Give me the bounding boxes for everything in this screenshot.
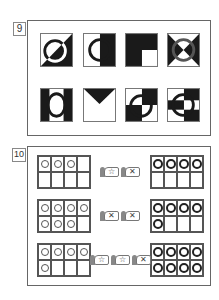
cross-icon: ✕ xyxy=(136,255,151,265)
star-card[interactable]: ☆ xyxy=(100,167,119,177)
circle-icon xyxy=(67,204,75,212)
tile-vertical-split-circle[interactable] xyxy=(83,33,116,67)
circle-icon xyxy=(80,204,88,212)
grid-cell xyxy=(190,216,203,232)
end-grid-row-1 xyxy=(150,155,204,189)
tile-side-bars-circle[interactable] xyxy=(40,88,73,122)
grid-cell xyxy=(177,260,190,276)
grid-cell xyxy=(190,172,203,188)
circle-icon xyxy=(179,263,189,273)
grid-cell xyxy=(151,156,164,172)
circle-icon xyxy=(41,204,49,212)
grid-cell xyxy=(151,244,164,260)
grid-cell xyxy=(51,156,64,172)
grid-cell xyxy=(64,156,77,172)
circle-icon xyxy=(153,159,163,169)
grid-cell xyxy=(164,200,177,216)
circle-icon xyxy=(54,248,62,256)
operation-cards-row-3: ☆☆✕ xyxy=(90,255,151,265)
circle-icon xyxy=(192,203,202,213)
grid-cell xyxy=(64,172,77,188)
tile-hourglass-circle[interactable] xyxy=(167,33,200,67)
star-icon: ☆ xyxy=(104,167,119,177)
circle-icon xyxy=(179,203,189,213)
grid-cell xyxy=(64,260,77,276)
grid-cell xyxy=(38,260,51,276)
circle-icon xyxy=(41,264,49,272)
circle-icon xyxy=(192,247,202,257)
grid-cell xyxy=(51,260,64,276)
start-grid-row-3 xyxy=(37,243,91,277)
circle-icon xyxy=(54,160,62,168)
circle-icon xyxy=(67,248,75,256)
grid-cell xyxy=(190,244,203,260)
cross-icon: ✕ xyxy=(104,211,119,221)
tile-diagonal-split-circle[interactable] xyxy=(40,33,73,67)
grid-cell xyxy=(151,200,164,216)
problem-number-10: 10 xyxy=(12,148,26,162)
circle-icon xyxy=(67,220,75,228)
grid-cell xyxy=(77,172,90,188)
tile-black-with-white-corner[interactable] xyxy=(125,33,158,67)
grid-cell xyxy=(190,156,203,172)
tile-checker-offset-circle[interactable] xyxy=(167,88,200,122)
grid-cell xyxy=(51,200,64,216)
operation-cards-row-2: ✕✕ xyxy=(100,211,140,221)
operation-cards-row-1: ☆✕ xyxy=(100,167,140,177)
circle-icon xyxy=(54,204,62,212)
cross-card[interactable]: ✕ xyxy=(121,167,140,177)
grid-cell xyxy=(38,172,51,188)
cross-card[interactable]: ✕ xyxy=(100,211,119,221)
circle-icon xyxy=(192,263,202,273)
grid-cell xyxy=(77,244,90,260)
grid-cell xyxy=(51,216,64,232)
grid-cell xyxy=(38,200,51,216)
grid-cell xyxy=(164,260,177,276)
grid-cell xyxy=(164,216,177,232)
circle-icon xyxy=(80,248,88,256)
grid-cell xyxy=(177,200,190,216)
grid-cell xyxy=(38,156,51,172)
circle-icon xyxy=(166,263,176,273)
grid-cell xyxy=(38,244,51,260)
star-icon: ☆ xyxy=(115,255,130,265)
grid-cell xyxy=(77,216,90,232)
cross-icon: ✕ xyxy=(125,211,140,221)
grid-cell xyxy=(177,156,190,172)
circle-icon xyxy=(179,247,189,257)
circle-icon xyxy=(153,219,163,229)
star-icon: ☆ xyxy=(94,255,109,265)
star-card[interactable]: ☆ xyxy=(90,255,109,265)
grid-cell xyxy=(151,260,164,276)
cross-card[interactable]: ✕ xyxy=(132,255,151,265)
grid-cell xyxy=(51,172,64,188)
start-grid-row-2 xyxy=(37,199,91,233)
grid-cell xyxy=(64,200,77,216)
circle-icon xyxy=(41,220,49,228)
grid-cell xyxy=(77,260,90,276)
circle-icon xyxy=(67,160,75,168)
grid-cell xyxy=(77,200,90,216)
cross-card[interactable]: ✕ xyxy=(121,211,140,221)
circle-icon xyxy=(179,159,189,169)
end-grid-row-3 xyxy=(150,243,204,277)
circle-icon xyxy=(166,247,176,257)
start-grid-row-1 xyxy=(37,155,91,189)
star-card[interactable]: ☆ xyxy=(111,255,130,265)
grid-cell xyxy=(38,216,51,232)
grid-cell xyxy=(190,200,203,216)
grid-cell xyxy=(77,156,90,172)
tile-downward-triangle[interactable] xyxy=(83,88,116,122)
circle-icon xyxy=(166,159,176,169)
grid-cell xyxy=(151,172,164,188)
grid-cell xyxy=(164,172,177,188)
circle-icon xyxy=(54,220,62,228)
grid-cell xyxy=(164,156,177,172)
circle-icon xyxy=(41,248,49,256)
grid-cell xyxy=(164,244,177,260)
problem-number-9: 9 xyxy=(13,22,26,36)
grid-cell xyxy=(177,244,190,260)
circle-icon xyxy=(153,263,163,273)
grid-cell xyxy=(177,216,190,232)
tile-checker-circle[interactable] xyxy=(125,88,158,122)
